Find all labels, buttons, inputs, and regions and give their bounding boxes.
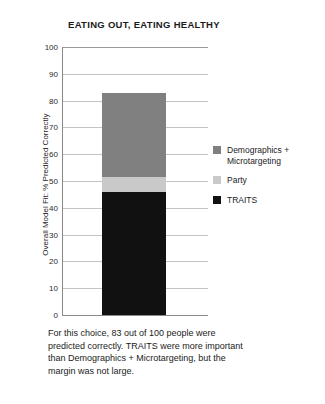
- gridline: [63, 74, 208, 75]
- chart-figure: EATING OUT, EATING HEALTHY Overall Model…: [0, 0, 325, 404]
- legend-label: Demographics + Microtargeting: [227, 145, 325, 166]
- chart-caption: For this choice, 83 out of 100 people we…: [48, 327, 248, 377]
- y-tick-label: 40: [49, 203, 58, 212]
- legend-item[interactable]: Demographics + Microtargeting: [213, 145, 325, 166]
- y-tick-label: 30: [49, 230, 58, 239]
- legend-item[interactable]: TRAITS: [213, 195, 325, 206]
- stacked-bar[interactable]: [102, 93, 166, 315]
- y-tick-label: 10: [49, 284, 58, 293]
- bar-segment-traits[interactable]: [102, 192, 166, 315]
- plot-area: 1009080706050403020100: [62, 47, 208, 316]
- y-tick-label: 90: [49, 69, 58, 78]
- legend-item[interactable]: Party: [213, 175, 325, 186]
- y-tick-label: 0: [54, 311, 58, 320]
- y-tick-label: 60: [49, 150, 58, 159]
- gridline: [63, 47, 208, 48]
- legend: Demographics + MicrotargetingPartyTRAITS: [213, 145, 325, 214]
- bar-segment-party[interactable]: [102, 177, 166, 192]
- legend-label: Party: [227, 175, 247, 186]
- bar-segment-demographics-microtargeting[interactable]: [102, 93, 166, 177]
- y-tick-label: 100: [45, 43, 58, 52]
- y-tick-label: 70: [49, 123, 58, 132]
- y-tick-label: 50: [49, 177, 58, 186]
- chart-title: EATING OUT, EATING HEALTHY: [68, 19, 220, 30]
- y-tick-label: 80: [49, 96, 58, 105]
- legend-swatch-icon: [213, 196, 221, 204]
- legend-label: TRAITS: [227, 195, 257, 206]
- y-tick-label: 20: [49, 257, 58, 266]
- legend-swatch-icon: [213, 146, 221, 154]
- legend-swatch-icon: [213, 176, 221, 184]
